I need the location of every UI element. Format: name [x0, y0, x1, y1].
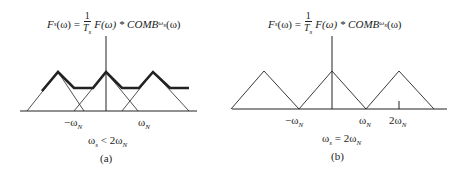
- panel-b-plot: [231, 36, 447, 109]
- panel-a-label-pos-wn: ωN: [138, 116, 150, 131]
- panel-b-condition: ωs = 2ωN: [322, 132, 361, 147]
- label-sub: N: [145, 123, 150, 131]
- eq-lhs: F: [47, 18, 54, 30]
- cond-sub2: N: [356, 139, 361, 147]
- eq-rhs: F(ω) * COMB: [315, 18, 379, 30]
- eq-lhs: F: [268, 18, 275, 30]
- label-sub: N: [366, 121, 371, 129]
- eq-rhs-sub: ωs: [379, 19, 387, 29]
- eq-frac-den: Ts: [83, 22, 91, 38]
- panel-b-equation: Fs(ω) = 1 Ts F(ω) * COMBωs(ω): [268, 10, 402, 38]
- panel-a-condition: ωs < 2ωN: [88, 134, 127, 149]
- panel-b-label-neg-wn: −ωN: [285, 114, 303, 129]
- eq-fraction: 1 Ts: [304, 10, 312, 38]
- panel-a-label-neg-wn: −ωN: [64, 116, 82, 131]
- eq-rhs-arg: (ω): [166, 18, 181, 30]
- panel-b-triangle-left: [231, 71, 299, 109]
- eq-lhs-arg: (ω) =: [277, 18, 301, 30]
- label-sub: N: [77, 123, 82, 131]
- panel-a-triangle-left: [27, 72, 84, 111]
- label-text: 2ω: [389, 114, 402, 126]
- panel-b-triangle-right: [366, 71, 434, 109]
- eq-frac-den-sub: s: [310, 28, 313, 36]
- eq-lhs-arg: (ω) =: [56, 18, 80, 30]
- label-text: −ω: [64, 116, 77, 128]
- eq-rhs-sub: ωs: [158, 19, 166, 29]
- panel-b-caption: (b): [331, 150, 344, 162]
- eq-rhs: F(ω) * COMB: [94, 18, 158, 30]
- cond-sub2: N: [122, 141, 127, 149]
- panel-b-label-2wn: 2ωN: [389, 114, 406, 129]
- eq-frac-den-sub: s: [89, 28, 92, 36]
- label-sub: N: [298, 121, 303, 129]
- cond-rel: = 2ω: [332, 132, 356, 144]
- panel-b-label-pos-wn: ωN: [359, 114, 371, 129]
- cond-rel: < 2ω: [98, 134, 122, 146]
- eq-frac-num: 1: [84, 10, 91, 22]
- eq-fraction: 1 Ts: [83, 10, 91, 38]
- panel-a-triangle-right: [122, 72, 189, 111]
- panel-a-plot: [20, 36, 197, 111]
- eq-rhs-arg: (ω): [387, 18, 402, 30]
- eq-frac-den: Ts: [304, 22, 312, 38]
- panel-a-caption: (a): [100, 152, 112, 164]
- label-text: −ω: [285, 114, 298, 126]
- label-sub: N: [402, 121, 407, 129]
- eq-frac-num: 1: [305, 10, 312, 22]
- panel-a-equation: Fs(ω) = 1 Ts F(ω) * COMBωs(ω): [47, 10, 181, 38]
